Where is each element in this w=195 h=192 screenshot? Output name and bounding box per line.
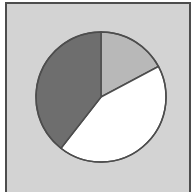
plot-area <box>0 0 195 192</box>
figure-root <box>0 0 195 192</box>
pie-chart <box>0 0 195 192</box>
